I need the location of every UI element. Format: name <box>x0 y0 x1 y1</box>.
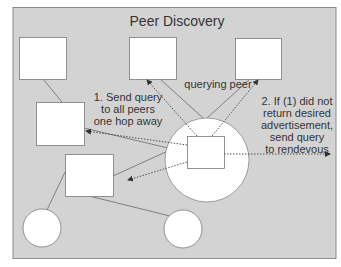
peer-bottom-center <box>164 210 202 248</box>
peer-lower-left <box>66 155 114 197</box>
diagram-title: Peer Discovery <box>0 15 341 27</box>
peer-middle-left <box>37 103 85 146</box>
step2-label: 2. If (1) did not return desired adverti… <box>254 95 340 155</box>
peer-bottom-left <box>23 209 61 247</box>
querying-peer-label: querying peer <box>170 78 266 90</box>
peer-top-center <box>130 38 177 80</box>
peer-top-left <box>20 38 67 80</box>
peer-top-right <box>236 39 282 80</box>
querying-peer-node <box>188 137 225 169</box>
step1-label: 1. Send query to all peers one hop away <box>87 91 169 127</box>
